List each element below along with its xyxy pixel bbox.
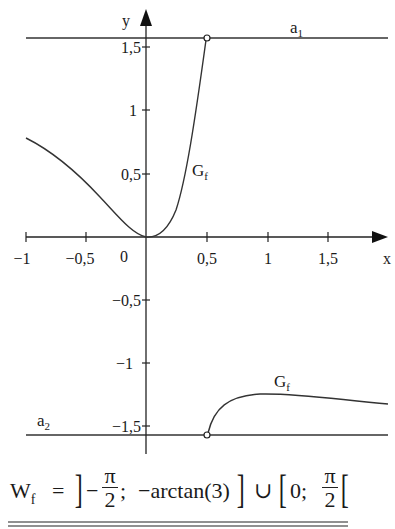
formula-arctan: −arctan(3) — [138, 478, 230, 504]
formula-fraction-pi-2: π 2 — [322, 465, 338, 512]
graph-gf-right-branch — [208, 394, 388, 433]
formula-lhs: Wf — [10, 478, 35, 504]
y-tick-label: 1 — [129, 102, 137, 119]
x-tick-label: 0,5 — [197, 250, 217, 267]
y-tick-label: −1,5 — [112, 418, 141, 435]
formula-bracket: ] — [75, 468, 83, 512]
origin-label: 0 — [120, 248, 128, 265]
y-axis-label: y — [122, 12, 130, 30]
formula-minus: − — [86, 478, 98, 504]
x-tick-label: −0,5 — [65, 250, 94, 267]
formula-bracket: ] — [237, 468, 245, 512]
y-tick-label: 0,5 — [121, 166, 141, 183]
chart-figure: −1 −0,5 0 0,5 1 1,5 x 1,5 1 0,5 −0,5 −1 … — [0, 0, 395, 529]
graph-label-gf-upper: Gf — [192, 161, 208, 182]
x-axis-label: x — [383, 250, 391, 267]
y-tick-label: −1 — [116, 355, 133, 372]
formula-equals: = — [52, 478, 64, 504]
graph-gf-left-branch — [26, 40, 206, 237]
open-point-bottom — [204, 432, 210, 438]
y-tick-label: −0,5 — [112, 292, 141, 309]
formula-fraction-pi-2: π 2 — [102, 465, 118, 512]
formula-semicolon: ; — [120, 478, 126, 504]
x-tick-label: 1 — [264, 250, 272, 267]
asymptote-a1-label: a1 — [290, 18, 303, 39]
x-tick-label: −1 — [13, 250, 30, 267]
x-axis-arrow-icon — [372, 231, 388, 243]
open-point-top — [204, 35, 210, 41]
y-tick-label: 1,5 — [121, 39, 141, 56]
x-tick-label: 1,5 — [318, 250, 338, 267]
asymptote-a2-label: a2 — [37, 411, 50, 432]
graph-label-gf-lower: Gf — [274, 372, 290, 393]
formula-union: ∪ — [254, 478, 272, 504]
formula-bracket: [ — [279, 468, 287, 512]
formula-zero: 0; — [290, 478, 307, 504]
formula-bracket: [ — [341, 468, 349, 512]
y-axis-arrow-icon — [140, 9, 152, 26]
